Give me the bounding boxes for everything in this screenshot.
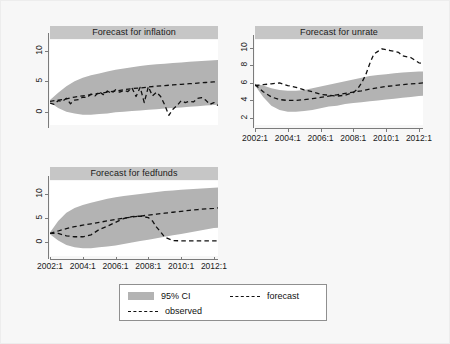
plot-svg-fedfunds [50, 181, 218, 256]
y-tick-label: 5 [34, 209, 44, 225]
y-tick-label: 10 [239, 39, 249, 55]
y-tick [45, 194, 48, 195]
y-tick-label: 5 [34, 72, 44, 88]
legend-item-observed: observed [128, 304, 202, 318]
y-tick-label: 4 [239, 91, 249, 107]
x-tick-label: 2010:1 [369, 133, 403, 143]
legend-swatch-forecast [230, 296, 260, 297]
x-tick-label: 2006:1 [304, 133, 338, 143]
y-tick [45, 218, 48, 219]
y-tick [45, 81, 48, 82]
legend-label-observed: observed [165, 306, 202, 316]
x-tick [214, 257, 215, 260]
forecast-figure: Forecast for inflation 0510 Forecast for… [0, 0, 450, 344]
y-tick [250, 100, 253, 101]
y-tick-label: 0 [34, 103, 44, 119]
x-tick [148, 257, 149, 260]
y-tick [45, 51, 48, 52]
x-tick [116, 257, 117, 260]
y-tick-label: 0 [34, 233, 44, 249]
y-axis-inflation [48, 33, 49, 128]
x-tick [353, 129, 354, 132]
x-tick-label: 2002:1 [238, 133, 272, 143]
x-tick [50, 257, 51, 260]
plot-area-inflation [50, 40, 218, 125]
x-tick [419, 129, 420, 132]
y-tick-label: 8 [239, 56, 249, 72]
x-tick-label: 2012:1 [402, 133, 436, 143]
panel-title-inflation: Forecast for inflation [50, 26, 218, 39]
plot-svg-inflation [50, 40, 218, 125]
x-axis-unrate [255, 128, 423, 129]
plot-area-fedfunds [50, 181, 218, 256]
y-tick-label: 10 [34, 185, 44, 201]
legend-item-ci: 95% CI [128, 289, 191, 303]
panel-title-fedfunds: Forecast for fedfunds [50, 167, 218, 180]
x-tick-label: 2010:1 [164, 261, 198, 271]
x-tick [288, 129, 289, 132]
x-tick-label: 2008:1 [131, 261, 165, 271]
y-tick [250, 118, 253, 119]
plot-svg-unrate [255, 40, 423, 125]
x-tick-label: 2004:1 [271, 133, 305, 143]
y-axis-fedfunds [48, 176, 49, 259]
panel-unrate: Forecast for unrate 246810 2002:12004:12… [226, 1, 450, 151]
y-tick-label: 10 [34, 42, 44, 58]
legend-label-ci: 95% CI [161, 291, 191, 301]
x-tick [83, 257, 84, 260]
x-tick [181, 257, 182, 260]
x-axis-fedfunds [50, 259, 218, 260]
x-tick-label: 2004:1 [66, 261, 100, 271]
x-tick [321, 129, 322, 132]
legend: 95% CI forecast observed [119, 284, 327, 321]
y-tick-label: 6 [239, 74, 249, 90]
legend-swatch-observed [128, 311, 158, 312]
x-tick [255, 129, 256, 132]
x-tick-label: 2002:1 [33, 261, 67, 271]
x-tick-label: 2008:1 [336, 133, 370, 143]
y-tick [250, 48, 253, 49]
legend-swatch-ci [128, 292, 154, 300]
x-tick-label: 2006:1 [99, 261, 133, 271]
y-tick [45, 112, 48, 113]
y-tick [250, 65, 253, 66]
ci-band-2 [50, 187, 218, 248]
x-tick [386, 129, 387, 132]
legend-label-forecast: forecast [267, 291, 299, 301]
plot-area-unrate [255, 40, 423, 125]
legend-item-forecast: forecast [230, 289, 299, 303]
panel-title-unrate: Forecast for unrate [255, 26, 423, 39]
panel-inflation: Forecast for inflation 0510 [1, 1, 226, 151]
ci-band-1 [255, 72, 423, 112]
ci-band-0 [50, 60, 218, 115]
y-tick [250, 83, 253, 84]
y-axis-unrate [253, 35, 254, 128]
panel-fedfunds: Forecast for fedfunds 0510 2002:12004:12… [1, 151, 226, 281]
x-tick-label: 2012:1 [197, 261, 231, 271]
y-tick [45, 242, 48, 243]
y-tick-label: 2 [239, 109, 249, 125]
